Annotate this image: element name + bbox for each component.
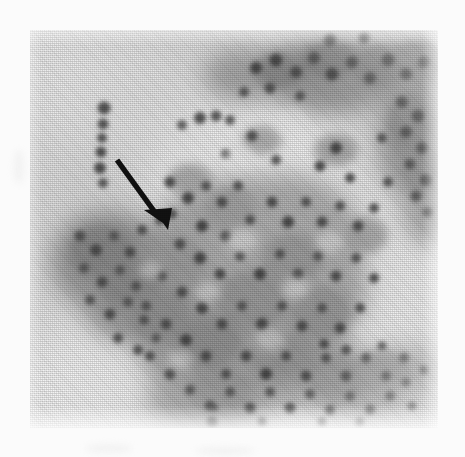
photomicrograph-plate	[30, 30, 438, 428]
margin-artefact	[14, 150, 24, 184]
figure-page	[0, 0, 465, 457]
margin-artefact	[196, 447, 254, 455]
photomicrograph-canvas	[30, 30, 438, 428]
margin-artefact	[86, 444, 132, 453]
